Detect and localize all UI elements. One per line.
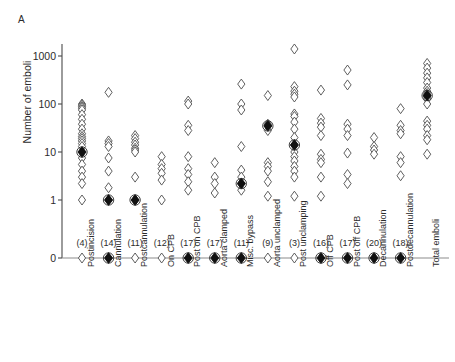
data-point-open-diamond (291, 172, 298, 182)
zero-marker-filled-diamond (105, 253, 113, 264)
zero-marker-open-diamond (132, 253, 139, 263)
zero-marker-open-diamond (158, 253, 165, 263)
data-point-open-diamond (185, 152, 192, 162)
zero-marker-filled-diamond (317, 253, 325, 264)
data-point-open-diamond (132, 172, 139, 182)
data-point-open-diamond (317, 172, 324, 182)
data-point-open-diamond (264, 191, 271, 201)
median-marker-filled-diamond (237, 178, 245, 189)
data-point-open-diamond (264, 91, 271, 101)
x-tick-label-aorta-clamped: Aorta clamped (219, 209, 229, 267)
data-point-open-diamond (317, 191, 324, 201)
data-point-open-diamond (291, 44, 298, 54)
data-point-open-diamond (211, 158, 218, 168)
zero-marker-open-diamond (264, 253, 271, 263)
data-point-open-diamond (105, 153, 112, 163)
median-marker-filled-diamond (131, 195, 139, 206)
zero-marker-open-diamond (78, 253, 85, 263)
x-tick-label-total-emboli: Total emboli (431, 219, 441, 267)
data-point-open-diamond (238, 105, 245, 115)
data-point-open-diamond (185, 185, 192, 195)
data-point-open-diamond (317, 131, 324, 141)
data-point-open-diamond (105, 87, 112, 97)
data-point-open-diamond (397, 104, 404, 114)
zero-marker-filled-diamond (397, 253, 405, 264)
zero-marker-filled-diamond (184, 253, 192, 264)
data-point-open-diamond (78, 195, 85, 205)
data-point-open-diamond (317, 85, 324, 95)
data-point-open-diamond (424, 149, 431, 159)
zero-marker-filled-diamond (344, 253, 352, 264)
data-point-open-diamond (78, 179, 85, 189)
data-point-open-diamond (344, 65, 351, 75)
figure-panel-a: A Number of emboli 10001001010 (4)(14)(1… (0, 0, 455, 362)
data-point-open-diamond (397, 171, 404, 181)
scatter-plot-canvas (0, 0, 455, 362)
x-tick-label-aorta-unclamped: Aorta unclamped (272, 199, 282, 267)
x-tick-label-postcannulation: Postcannulation (139, 203, 149, 267)
data-point-open-diamond (105, 166, 112, 176)
x-tick-label-decannulation: Decannulation (378, 209, 388, 267)
zero-marker-open-diamond (291, 253, 298, 263)
x-tick-label-off-cpb: Off CPB (325, 234, 335, 267)
data-point-open-diamond (344, 131, 351, 141)
x-tick-label-cannulation: Cannulation (113, 219, 123, 267)
data-point-open-diamond (397, 158, 404, 168)
data-point-open-diamond (344, 80, 351, 90)
median-marker-filled-diamond (290, 140, 298, 151)
data-point-open-diamond (238, 142, 245, 152)
data-point-open-diamond (238, 79, 245, 89)
data-point-open-diamond (158, 195, 165, 205)
x-tick-label-postdecannulation: Postdecannulation (405, 193, 415, 267)
x-tick-label-post-on-cpb: Post on CPB (192, 215, 202, 267)
data-point-open-diamond (211, 179, 218, 189)
data-point-open-diamond (291, 191, 298, 201)
data-point-open-diamond (105, 183, 112, 193)
x-tick-label-post-unclamping: Post unclamping (298, 200, 308, 267)
x-tick-label-postincision: Postincision (86, 219, 96, 267)
data-point-open-diamond (344, 179, 351, 189)
zero-marker-filled-diamond (370, 253, 378, 264)
data-point-open-diamond (264, 177, 271, 187)
x-tick-label-misc-bypass: Misc. bypass (245, 215, 255, 267)
data-point-open-diamond (158, 175, 165, 185)
zero-marker-filled-diamond (211, 253, 219, 264)
x-tick-label-post-off-cpb: Post off CPB (352, 216, 362, 267)
data-point-open-diamond (211, 188, 218, 198)
x-tick-label-on-cpb: On CPB (166, 234, 176, 267)
data-point-open-diamond (344, 148, 351, 158)
median-marker-filled-diamond (105, 195, 113, 206)
